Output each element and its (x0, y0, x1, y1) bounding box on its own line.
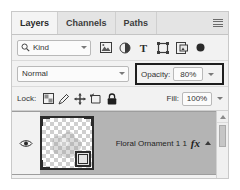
fill-input[interactable]: 100% (182, 92, 212, 106)
fill-dropdown-chevron-down-icon[interactable] (217, 97, 223, 100)
layer-effects-fx-icon[interactable]: fx (191, 137, 200, 149)
opacity-label: Opacity: (141, 70, 170, 79)
panel-menu-button[interactable] (208, 12, 228, 34)
tab-channels-label: Channels (66, 18, 107, 28)
shape-layer-icon[interactable] (154, 39, 171, 56)
blend-opacity-row: Normal Opacity: 80% (12, 61, 228, 87)
adjustment-layer-icon[interactable] (116, 39, 133, 56)
tab-bar-filler (157, 12, 208, 34)
layer-list: Floral Ornament 1 1 fx (12, 111, 228, 179)
layers-panel: Layers Channels Paths Kind (11, 11, 229, 179)
chevron-down-icon (81, 46, 87, 49)
tab-channels[interactable]: Channels (58, 12, 116, 34)
opacity-input[interactable]: 80% (173, 67, 203, 81)
layer-thumbnail[interactable] (40, 116, 94, 170)
panel-tab-bar: Layers Channels Paths (12, 12, 228, 35)
scroll-up-arrow-icon[interactable] (217, 111, 228, 123)
opacity-dropdown-chevron-down-icon[interactable] (208, 73, 214, 76)
panel-menu-icon (213, 19, 223, 27)
search-icon (21, 43, 30, 52)
tab-paths[interactable]: Paths (116, 12, 158, 34)
pixel-layer-icon[interactable] (97, 39, 114, 56)
thumbnail-corner-top-right (84, 117, 93, 126)
lock-row: Lock: (12, 87, 228, 111)
lock-position-icon[interactable] (72, 91, 88, 107)
filter-toggle-icon[interactable] (192, 39, 209, 56)
thumbnail-corner-top-left (41, 117, 50, 126)
layer-row[interactable]: Floral Ornament 1 1 fx (12, 111, 216, 175)
blend-mode-value: Normal (22, 69, 48, 78)
type-layer-icon[interactable]: T (135, 39, 152, 56)
eye-icon (19, 139, 33, 148)
filter-kind-dropdown[interactable]: Kind (17, 40, 91, 56)
chevron-up-icon[interactable] (205, 141, 211, 145)
chevron-down-icon (119, 72, 125, 75)
tab-layers[interactable]: Layers (12, 12, 58, 34)
scroll-thumb[interactable] (219, 125, 226, 147)
blend-mode-dropdown[interactable]: Normal (17, 66, 129, 82)
layer-list-scrollbar[interactable] (216, 111, 228, 179)
layer-visibility-toggle[interactable] (12, 112, 40, 174)
filter-kind-label: Kind (33, 43, 49, 52)
layer-filter-row: Kind T (12, 35, 228, 61)
lock-label: Lock: (17, 94, 36, 103)
layer-name[interactable]: Floral Ornament 1 1 (94, 139, 191, 148)
fill-label: Fill: (167, 94, 179, 103)
thumbnail-corner-bottom-left (41, 160, 50, 169)
lock-artboard-nesting-icon[interactable] (88, 91, 104, 107)
lock-transparent-pixels-icon[interactable] (40, 91, 56, 107)
lock-image-pixels-icon[interactable] (56, 91, 72, 107)
transform-widget-icon (75, 151, 91, 167)
tab-layers-label: Layers (20, 18, 49, 28)
opacity-control-highlight: Opacity: 80% (135, 63, 224, 85)
svg-text:T: T (140, 42, 148, 53)
smart-object-icon[interactable] (173, 39, 190, 56)
lock-all-icon[interactable] (104, 91, 120, 107)
tab-paths-label: Paths (124, 18, 149, 28)
